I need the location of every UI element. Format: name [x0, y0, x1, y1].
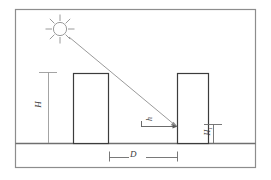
label-distance: D — [130, 150, 137, 159]
label-shadow-height: h — [146, 117, 154, 121]
label-building-height: H — [34, 101, 43, 108]
label-remaining-height-main: H — [203, 130, 212, 136]
label-remaining-height-subscript: 1 — [208, 127, 213, 129]
figure-container: H h H1 D — [0, 0, 271, 180]
left-building — [74, 74, 109, 144]
label-remaining-height: H1 — [204, 127, 215, 135]
